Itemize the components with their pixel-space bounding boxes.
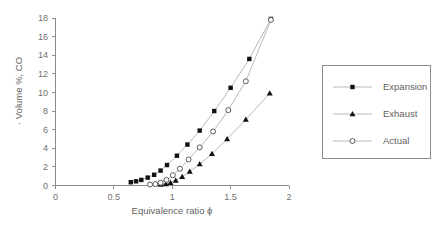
data-marker-triangle (179, 174, 185, 179)
x-axis: 00.511.52 (53, 186, 292, 203)
y-tick-label: 6 (43, 125, 48, 135)
x-tick-label: 2 (286, 192, 291, 202)
y-tick-label: 2 (43, 162, 48, 172)
chart-canvas: 024681012141618 00.511.52 · Volume %, CO… (0, 0, 440, 231)
x-tick-label: 0 (53, 192, 58, 202)
data-marker-square (350, 85, 354, 89)
data-marker-square (158, 168, 162, 172)
y-tick-label: 16 (38, 32, 48, 42)
data-marker-triangle (173, 177, 179, 182)
data-marker-circle (170, 173, 175, 178)
y-tick-label: 8 (43, 106, 48, 116)
data-marker-square (175, 154, 179, 158)
data-marker-circle (148, 182, 153, 187)
data-marker-square (212, 109, 216, 113)
data-marker-square (129, 180, 133, 184)
data-marker-circle (211, 129, 216, 134)
data-marker-circle (153, 182, 158, 187)
x-tick-label: 0.5 (108, 192, 121, 202)
data-marker-square (228, 86, 232, 90)
y-tick-label: 12 (38, 69, 48, 79)
legend-label: Actual (383, 135, 409, 146)
data-marker-square (165, 163, 169, 167)
chart-screenshot: 024681012141618 00.511.52 · Volume %, CO… (0, 0, 440, 231)
data-marker-square (139, 178, 143, 182)
y-tick-label: 4 (43, 143, 48, 153)
data-marker-circle (164, 177, 169, 182)
y-axis: 024681012141618 (38, 13, 56, 191)
y-tick-label: 14 (38, 50, 48, 60)
y-tick-group: 024681012141618 (38, 13, 56, 191)
data-marker-square (134, 179, 138, 183)
data-marker-circle (243, 79, 248, 84)
data-marker-square (152, 173, 156, 177)
series-expansion (129, 17, 273, 185)
data-marker-triangle (267, 90, 273, 95)
series-layer (129, 17, 274, 187)
legend-label: Exhaust (383, 108, 418, 119)
x-tick-group: 00.511.52 (53, 186, 292, 203)
y-tick-label: 10 (38, 88, 48, 98)
data-marker-circle (350, 139, 355, 144)
legend: ExpansionExhaustActual (323, 66, 431, 159)
data-marker-triangle (187, 169, 193, 174)
x-tick-label: 1 (170, 192, 175, 202)
data-marker-circle (186, 157, 191, 162)
data-marker-square (197, 128, 201, 132)
data-marker-square (146, 175, 150, 179)
series-line (131, 19, 271, 182)
y-tick-label: 18 (38, 13, 48, 23)
series-actual (148, 17, 274, 187)
y-axis-title: · Volume %, CO (13, 57, 24, 125)
series-exhaust (158, 90, 273, 186)
data-marker-square (247, 57, 251, 61)
data-marker-circle (268, 17, 273, 22)
data-marker-circle (177, 166, 182, 171)
data-marker-circle (197, 145, 202, 150)
data-marker-circle (226, 108, 231, 113)
legend-label: Expansion (383, 81, 427, 92)
x-tick-label: 1.5 (224, 192, 237, 202)
data-marker-square (185, 142, 189, 146)
x-axis-title: Equivalence ratio ϕ (132, 205, 213, 216)
data-marker-circle (158, 180, 163, 185)
series-line (150, 20, 271, 185)
y-tick-label: 0 (43, 181, 48, 191)
